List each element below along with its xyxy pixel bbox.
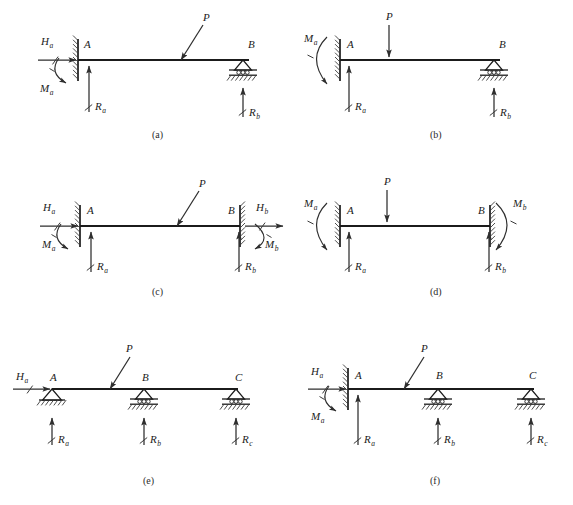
roller-wheel-1 <box>492 71 496 75</box>
node-label-a-f: A <box>354 369 362 381</box>
node-label-a-a: A <box>83 38 91 50</box>
panel-e <box>13 357 250 445</box>
rb-reaction-up-a <box>239 88 246 117</box>
roller-ground-hatch <box>422 404 451 409</box>
hatch-stroke <box>491 75 495 80</box>
label-p-f: P <box>420 342 428 354</box>
hatch-stroke <box>515 404 519 409</box>
rb-reaction-up-f <box>434 418 441 445</box>
load-arrow-shaft <box>404 357 424 389</box>
moment-arc-path <box>317 37 328 84</box>
hatch-stroke <box>132 404 136 409</box>
hatch-stroke <box>519 404 523 409</box>
roller-support-a-1 <box>227 60 257 81</box>
roller-triangle <box>228 389 245 399</box>
roller-wheel-1 <box>241 71 245 75</box>
label-ra-d: Ra <box>354 260 366 275</box>
label-ra-e: Ra <box>57 433 69 448</box>
moment-tick <box>308 221 314 224</box>
wall-hatch <box>73 36 78 41</box>
moment-arc-path <box>57 224 68 249</box>
hatch-stroke <box>50 400 54 405</box>
roller-ground-hatch <box>478 75 507 80</box>
hatch-stroke <box>136 404 140 409</box>
hatch-stroke <box>495 75 499 80</box>
hatch-stroke <box>227 75 231 80</box>
label-ma-c: Ma <box>41 238 56 253</box>
panel-a <box>38 25 257 117</box>
hatch-stroke <box>128 404 132 409</box>
hatch-stroke <box>244 75 248 80</box>
roller-wheel-2 <box>238 400 242 404</box>
label-rb-c: Rb <box>244 260 256 275</box>
hatch-stroke <box>145 404 149 409</box>
hatch-stroke <box>478 75 482 80</box>
wall-hatch <box>490 202 495 207</box>
figure-canvas: PHaMaRaRbAB(a)PMaRaRbAB(b)PHaMaRaHbMbRbA… <box>0 0 573 505</box>
label-ha-f: Ha <box>310 365 323 380</box>
hatch-stroke <box>435 404 439 409</box>
rb-reaction-up-c <box>235 232 242 272</box>
roller-triangle <box>136 389 153 399</box>
rc-reaction-up-e <box>232 418 239 445</box>
fixed-wall-support-b-0 <box>335 36 340 82</box>
hatch-stroke <box>228 404 232 409</box>
hatch-stroke <box>482 75 486 80</box>
ra-reaction-up-a <box>85 66 92 112</box>
hatch-stroke <box>149 404 153 409</box>
hatch-stroke <box>37 400 41 405</box>
hatch-stroke <box>536 404 540 409</box>
panel-f <box>308 357 545 445</box>
hatch-stroke <box>62 400 66 405</box>
hatch-stroke <box>245 404 249 409</box>
p-inclined-point-load-e <box>110 357 130 389</box>
roller-wheel-2 <box>146 400 150 404</box>
caption-e: (e) <box>143 475 154 487</box>
hatch-stroke <box>241 404 245 409</box>
label-ma-b: Ma <box>303 32 318 47</box>
roller-ground-hatch <box>515 404 544 409</box>
label-mb-d: Mb <box>512 197 527 212</box>
roller-wheel-2 <box>533 400 537 404</box>
node-label-b-b: B <box>499 38 506 50</box>
label-ra-b: Ra <box>354 100 366 115</box>
caption-d: (d) <box>430 286 442 298</box>
mb-moment-arc-right-big-d <box>496 203 517 250</box>
panel-b-text: PMaRaRbAB(b) <box>303 10 511 141</box>
caption-b: (b) <box>430 129 442 141</box>
roller-wheel-1 <box>234 400 238 404</box>
hatch-stroke <box>220 404 224 409</box>
hatch-stroke <box>233 404 237 409</box>
roller-wheel-1 <box>529 400 533 404</box>
rb-reaction-up-d <box>485 232 492 272</box>
label-ra-f: Ra <box>363 433 375 448</box>
wall-hatch <box>335 36 340 41</box>
moment-tick <box>52 235 57 238</box>
hatch-stroke <box>231 75 235 80</box>
caption-f: (f) <box>430 475 440 487</box>
label-p-e: P <box>125 342 133 354</box>
hatch-stroke <box>45 400 49 405</box>
draw-layer <box>13 25 545 445</box>
wall-hatch <box>240 202 245 207</box>
hatch-stroke <box>248 75 252 80</box>
pin-ground-hatch <box>37 400 66 405</box>
roller-support-e-1 <box>128 389 158 410</box>
hatch-stroke <box>141 404 145 409</box>
ra-reaction-up-c <box>87 232 94 272</box>
node-label-b-e: B <box>142 371 149 383</box>
moment-arc-path <box>55 58 66 83</box>
hatch-stroke <box>486 75 490 80</box>
ra-reaction-up-f <box>354 395 361 445</box>
label-ma-a: Ma <box>39 82 54 97</box>
label-ra-c: Ra <box>96 260 108 275</box>
roller-triangle <box>430 389 447 399</box>
roller-support-b-1 <box>478 60 508 81</box>
hatch-stroke <box>540 404 544 409</box>
wall-hatch <box>75 202 80 207</box>
roller-ground-hatch <box>220 404 249 409</box>
beam-diagram-figure: PHaMaRaRbAB(a)PMaRaRbAB(b)PHaMaRaHbMbRbA… <box>0 0 573 505</box>
hatch-stroke <box>54 400 58 405</box>
label-rb-f: Rb <box>443 433 455 448</box>
label-ha-c: Ha <box>42 201 55 216</box>
